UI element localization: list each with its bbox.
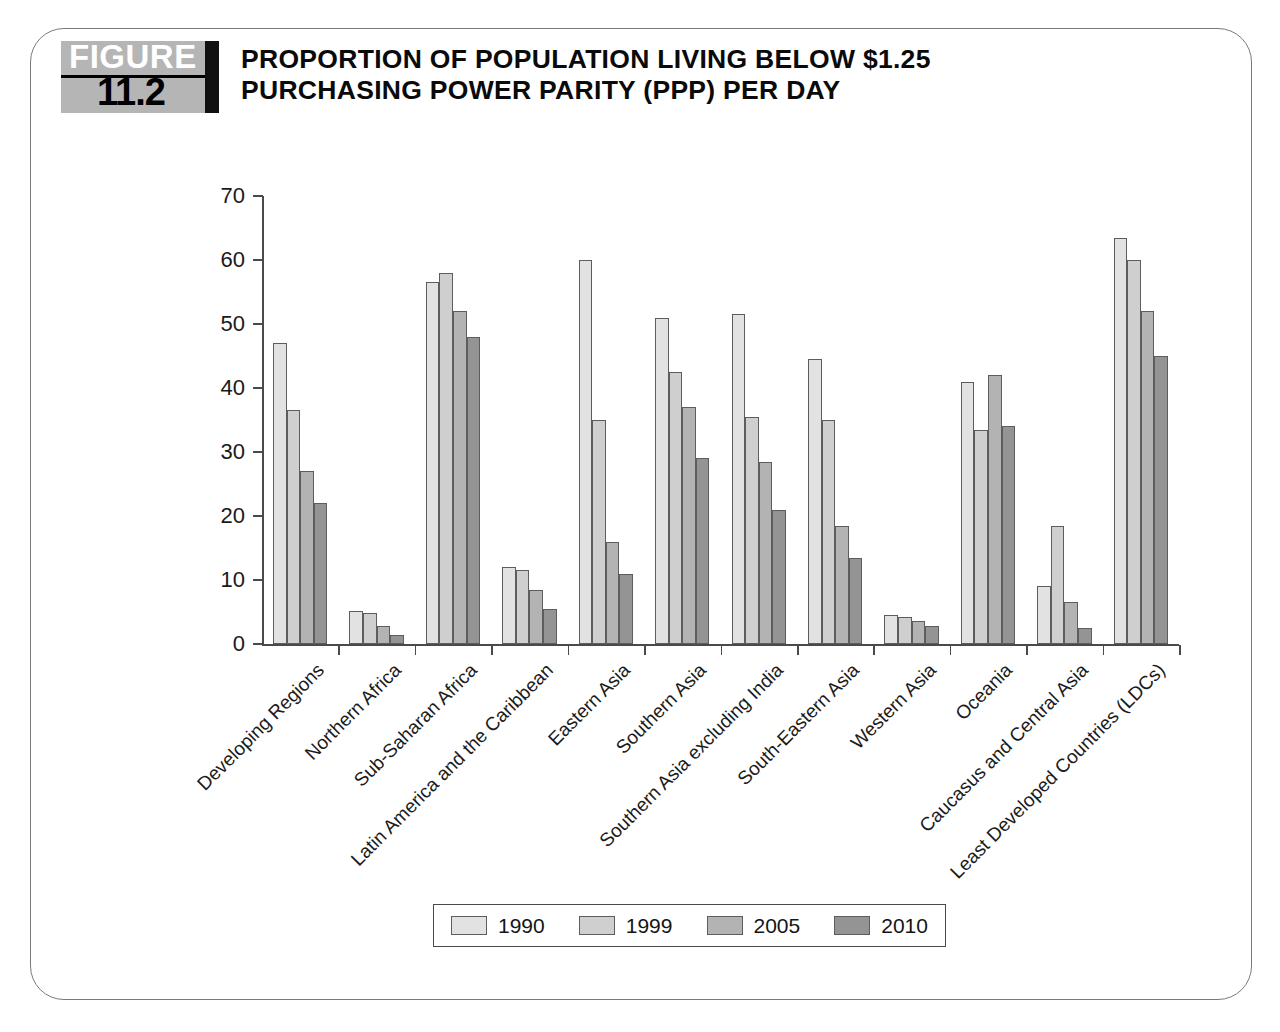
bar <box>988 375 1002 644</box>
bar <box>426 282 440 644</box>
bar <box>1051 526 1065 644</box>
legend-item: 2010 <box>834 915 928 936</box>
bar <box>808 359 822 644</box>
bar <box>732 314 746 644</box>
bar <box>363 613 377 644</box>
legend-item: 1999 <box>579 915 673 936</box>
legend-swatch <box>579 916 615 935</box>
bar <box>1114 238 1128 644</box>
bar <box>1127 260 1141 644</box>
legend-label: 2005 <box>754 915 801 936</box>
bar <box>696 458 710 644</box>
bar <box>759 462 773 644</box>
bar <box>314 503 328 644</box>
bar <box>961 382 975 644</box>
bar <box>439 273 453 644</box>
bar <box>884 615 898 644</box>
chart-plot-area: 010203040506070 Developing RegionsNorthe… <box>31 29 1253 1001</box>
bar <box>543 609 557 644</box>
bars-layer <box>31 29 1253 1001</box>
chart-legend: 1990199920052010 <box>433 904 946 947</box>
legend-swatch <box>451 916 487 935</box>
legend-swatch <box>834 916 870 935</box>
bar <box>606 542 620 644</box>
legend-item: 2005 <box>707 915 801 936</box>
bar <box>1064 602 1078 644</box>
bar <box>898 617 912 644</box>
bar <box>377 626 391 644</box>
legend-label: 1990 <box>498 915 545 936</box>
bar <box>682 407 696 644</box>
legend-item: 1990 <box>451 915 545 936</box>
bar <box>467 337 481 644</box>
bar <box>849 558 863 644</box>
bar <box>579 260 593 644</box>
bar <box>502 567 516 644</box>
bar <box>745 417 759 644</box>
bar <box>835 526 849 644</box>
bar <box>772 510 786 644</box>
legend-label: 1999 <box>626 915 673 936</box>
legend-swatch <box>707 916 743 935</box>
bar <box>1141 311 1155 644</box>
bar <box>912 621 926 644</box>
bar <box>300 471 314 644</box>
bar <box>592 420 606 644</box>
figure-card: FIGURE 11.2 PROPORTION OF POPULATION LIV… <box>30 28 1252 1000</box>
bar <box>974 430 988 644</box>
bar <box>669 372 683 644</box>
bar <box>1002 426 1016 644</box>
bar <box>516 570 530 644</box>
bar <box>273 343 287 644</box>
bar <box>529 590 543 644</box>
bar <box>1154 356 1168 644</box>
bar <box>619 574 633 644</box>
bar <box>349 611 363 644</box>
bar <box>390 635 404 644</box>
bar <box>1078 628 1092 644</box>
bar <box>925 626 939 644</box>
bar <box>1037 586 1051 644</box>
legend-label: 2010 <box>881 915 928 936</box>
bar <box>453 311 467 644</box>
bar <box>822 420 836 644</box>
bar <box>287 410 301 644</box>
bar <box>655 318 669 644</box>
